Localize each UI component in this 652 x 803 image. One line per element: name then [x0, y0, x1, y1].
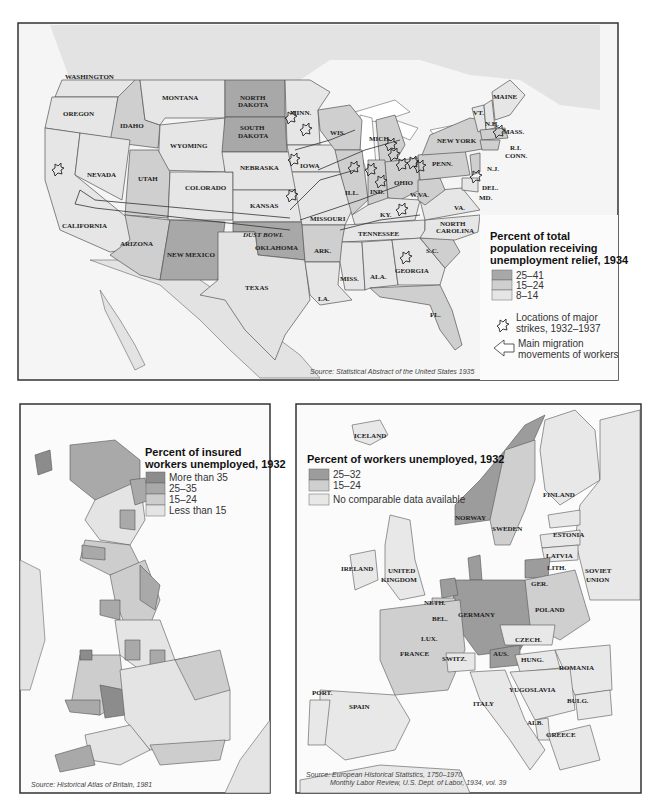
label-alb: ALB.: [527, 719, 543, 727]
label-switz: SWITZ.: [442, 655, 467, 663]
label-sweden: SWEDEN: [492, 525, 522, 533]
svg-text:UNION: UNION: [586, 576, 609, 584]
label-bel: BEL.: [432, 615, 448, 623]
label-estonia: ESTONIA: [553, 531, 584, 539]
label-finland: FINLAND: [543, 491, 575, 499]
svg-text:No comparable data available: No comparable data available: [333, 494, 466, 505]
label-aus: AUS.: [493, 650, 509, 658]
svg-text:KINGDOM: KINGDOM: [381, 576, 417, 584]
label-romania: ROMANIA: [559, 664, 594, 672]
label-spain: SPAIN: [349, 703, 369, 711]
label-france: FRANCE: [400, 650, 429, 658]
svg-text:Monthly Labor Review, U.S. Dep: Monthly Labor Review, U.S. Dept. of Labo…: [330, 779, 506, 787]
label-ireland: IRELAND: [341, 565, 373, 573]
europe-source: Source: European Historical Statistics, …: [306, 771, 462, 779]
label-lux: LUX.: [421, 635, 438, 643]
label-italy: ITALY: [473, 700, 494, 708]
svg-text:Percent of workers unemployed,: Percent of workers unemployed, 1932: [307, 453, 504, 465]
label-neth: NETH.: [424, 599, 446, 607]
label-ger: GER.: [531, 580, 548, 588]
label-soviet-union: SOVIET: [585, 567, 612, 575]
label-lith: LITH.: [547, 564, 567, 572]
label-norway: NORWAY: [455, 514, 486, 522]
label-iceland: ICELAND: [354, 432, 386, 440]
label-bulg: BULG.: [567, 697, 589, 705]
label-port: PORT.: [312, 689, 333, 697]
label-poland: POLAND: [535, 606, 565, 614]
label-united-kingdom: UNITED: [388, 567, 415, 575]
label-czech: CZECH.: [515, 636, 542, 644]
label-latvia: LATVIA: [546, 552, 573, 560]
label-yugoslavia: YUGOSLAVIA: [509, 686, 556, 694]
label-greece: GREECE: [546, 731, 576, 739]
label-hung: HUNG.: [521, 656, 544, 664]
svg-text:25–32: 25–32: [333, 469, 361, 480]
svg-text:15–24: 15–24: [333, 480, 361, 491]
label-germany: GERMANY: [458, 611, 495, 619]
europe-map: ICELAND NORWAY SWEDEN FINLAND ESTONIA LA…: [0, 0, 652, 803]
